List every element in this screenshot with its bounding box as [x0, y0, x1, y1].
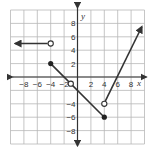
x-tick-label: 8 [129, 80, 134, 89]
x-tick-label: 4 [102, 80, 107, 89]
y-tick-label: 4 [71, 46, 76, 55]
closed-point [48, 61, 53, 66]
x-tick-label: −8 [19, 80, 29, 89]
axes [13, 8, 147, 146]
x-axis-label: x [136, 78, 141, 88]
open-point [68, 81, 73, 86]
y-tick-label: −6 [66, 113, 76, 122]
y-tick-label: 6 [71, 33, 76, 42]
y-tick-label: 8 [71, 19, 76, 28]
open-point [102, 101, 107, 106]
x-tick-label: 2 [89, 80, 94, 89]
plot-series [15, 27, 142, 120]
y-axis-label: y [80, 11, 85, 21]
x-tick-label: 6 [115, 80, 120, 89]
y-tick-label: −8 [66, 127, 76, 136]
y-tick-label: −4 [66, 100, 76, 109]
x-tick-label: −6 [33, 80, 43, 89]
x-tick-label: −4 [46, 80, 56, 89]
open-point [48, 41, 53, 46]
y-tick-label: 2 [71, 60, 76, 69]
coordinate-graph: −8−6−4−224688642−4−6−8 y x [0, 0, 152, 150]
closed-point [102, 115, 107, 120]
